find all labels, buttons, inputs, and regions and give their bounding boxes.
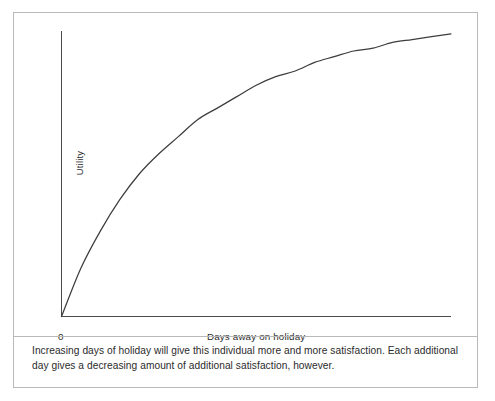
figure-frame: Utility Days away on holiday 0 Increasin… [13,12,478,388]
caption-divider [14,336,477,337]
y-axis-label: Utility [70,133,90,193]
utility-curve-line [62,34,452,317]
figure-caption: Increasing days of holiday will give thi… [32,344,460,373]
plot-area: Utility Days away on holiday 0 [14,13,477,336]
